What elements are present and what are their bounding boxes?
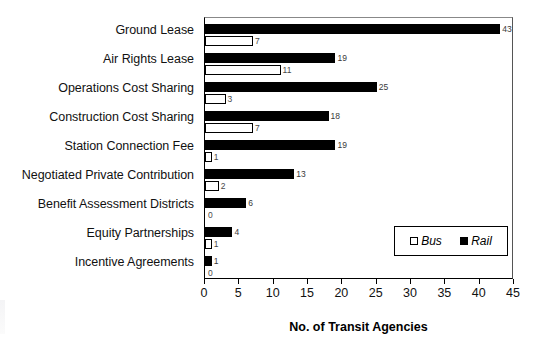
bar-value-label: 0 [208,269,213,278]
bar-rail: 4 [205,227,232,237]
axis-tick-label: 0 [201,286,208,300]
bar-value-label: 2 [221,182,226,191]
category-label: Air Rights Lease [0,53,194,66]
x-axis-ticks [204,279,513,285]
bar-group: 187 [205,108,512,137]
bar-value-label: 18 [331,112,340,121]
bar-bus: 1 [205,239,212,249]
legend-item-rail: Rail [460,234,492,248]
axis-tick-label: 30 [403,286,417,300]
axis-tick [204,279,205,284]
bar-bus: 7 [205,36,253,46]
legend-label-rail: Rail [471,234,492,248]
category-label: Construction Cost Sharing [0,111,194,124]
bar-chart-figure: Ground LeaseAir Rights LeaseOperations C… [0,0,534,356]
axis-tick-label: 20 [334,286,348,300]
category-label: Station Connection Fee [0,140,194,153]
bar-rail: 13 [205,169,294,179]
bar-value-label: 19 [337,54,346,63]
scan-artifact [0,300,5,334]
category-label: Negotiated Private Contribution [0,169,194,182]
bar-value-label: 19 [337,141,346,150]
bar-bus: 7 [205,123,253,133]
legend-label-bus: Bus [421,234,442,248]
bar-rail: 19 [205,140,335,150]
bar-value-label: 13 [296,170,305,179]
bar-rail: 19 [205,53,335,63]
axis-tick [341,279,342,284]
bar-value-label: 11 [283,66,292,75]
x-axis-tick-labels: 051015202530354045 [204,286,513,302]
bar-group: 132 [205,166,512,195]
category-label: Ground Lease [0,24,194,37]
bar-bus: 2 [205,181,219,191]
axis-tick [444,279,445,284]
axis-tick-label: 40 [472,286,486,300]
axis-tick-label: 15 [300,286,314,300]
bar-value-label: 4 [234,228,239,237]
axis-tick [376,279,377,284]
bar-group: 60 [205,195,512,224]
category-axis-labels: Ground LeaseAir Rights LeaseOperations C… [0,18,200,279]
bar-value-label: 7 [255,37,260,46]
axis-tick-label: 35 [437,286,451,300]
axis-tick [410,279,411,284]
bar-value-label: 6 [248,199,253,208]
bar-group: 1911 [205,50,512,79]
bar-rail: 6 [205,198,246,208]
axis-tick [238,279,239,284]
axis-tick [513,279,514,284]
axis-tick-label: 5 [235,286,242,300]
bar-group: 437 [205,21,512,50]
bar-value-label: 3 [228,95,233,104]
bar-rail: 43 [205,24,500,34]
axis-tick-label: 25 [369,286,383,300]
bar-value-label: 7 [255,124,260,133]
x-axis-title: No. of Transit Agencies [204,320,513,334]
bar-bus: 3 [205,94,226,104]
category-label: Operations Cost Sharing [0,82,194,95]
axis-tick [479,279,480,284]
axis-tick-label: 10 [266,286,280,300]
bar-value-label: 1 [214,257,219,266]
legend-item-bus: Bus [410,234,442,248]
legend-swatch-bus-icon [410,237,418,245]
bar-group: 253 [205,79,512,108]
legend-swatch-rail-icon [460,237,468,245]
bar-value-label: 1 [214,153,219,162]
bar-rail: 1 [205,256,212,266]
chart-legend: Bus Rail [394,226,508,256]
axis-tick [307,279,308,284]
bar-bus: 11 [205,65,281,75]
category-label: Benefit Assessment Districts [0,198,194,211]
axis-tick [273,279,274,284]
bar-value-label: 25 [379,83,388,92]
bar-rail: 25 [205,82,377,92]
category-label: Incentive Agreements [0,256,194,269]
bar-bus: 1 [205,152,212,162]
bar-rail: 18 [205,111,329,121]
bar-group: 191 [205,137,512,166]
bar-value-label: 0 [208,211,213,220]
bar-value-label: 1 [214,240,219,249]
category-label: Equity Partnerships [0,227,194,240]
axis-tick-label: 45 [506,286,520,300]
bar-value-label: 43 [502,25,511,34]
bar-group: 10 [205,253,512,282]
